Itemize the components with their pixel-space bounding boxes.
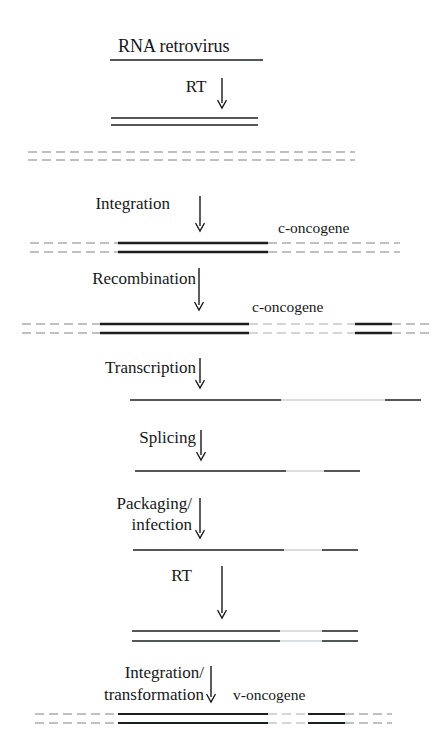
- strand-row-recombinant-provirus: [22, 324, 432, 333]
- step-label-packaging-infection-line-2: infection: [132, 515, 193, 534]
- arrow-integration: [196, 196, 204, 231]
- strand-row-transducing-dna: [132, 631, 358, 641]
- step-label-rt1: RT: [186, 77, 207, 96]
- arrow-splicing: [197, 430, 205, 460]
- strand-row-integrated-v-onc: [35, 714, 392, 723]
- strand-row-proviral-dna: [111, 118, 258, 125]
- arrow-packaging-infection: [196, 498, 204, 538]
- step-label-integration-transformation-line-1: Integration/: [125, 663, 205, 682]
- retroviral-transduction-diagram: RNA retrovirus RTIntegrationRecombinatio…: [0, 0, 445, 754]
- step-label-splicing: Splicing: [139, 428, 196, 447]
- figure-title: RNA retrovirus: [118, 36, 230, 56]
- labels-layer: RNA retrovirus RTIntegrationRecombinatio…: [92, 36, 349, 704]
- step-label-integration: Integration: [95, 194, 170, 213]
- gene-label-c-oncogene-2: c-oncogene: [252, 298, 324, 315]
- step-label-integration-transformation-line-2: transformation: [104, 685, 205, 704]
- step-label-rt2: RT: [171, 566, 192, 585]
- diagram-canvas: RNA retrovirus RTIntegrationRecombinatio…: [0, 0, 445, 754]
- gene-label-v-oncogene: v-oncogene: [233, 686, 305, 703]
- strand-row-host-chromosome: [28, 152, 355, 160]
- nucleic-acid-strands-layer: [22, 118, 432, 723]
- step-label-transcription: Transcription: [105, 358, 196, 377]
- arrow-integration-transformation: [207, 666, 215, 702]
- arrow-rt1: [218, 78, 226, 108]
- arrow-rt2: [218, 566, 226, 618]
- step-label-recombination: Recombination: [92, 269, 196, 288]
- step-label-packaging-infection-line-1: Packaging/: [116, 494, 192, 513]
- gene-label-c-oncogene-1: c-oncogene: [278, 219, 350, 236]
- strand-row-integrated-provirus: [30, 243, 400, 252]
- arrow-recombination: [195, 268, 203, 310]
- arrow-transcription: [196, 358, 204, 388]
- process-arrows-layer: [195, 78, 226, 702]
